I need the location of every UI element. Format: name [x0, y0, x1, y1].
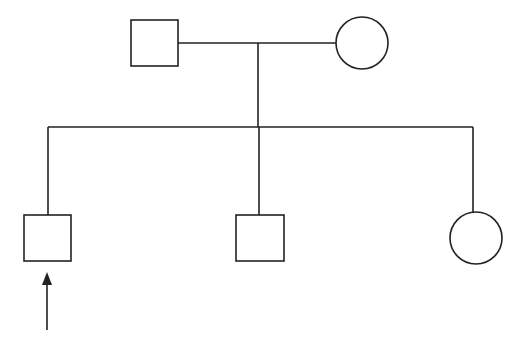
father-male-symbol — [131, 20, 178, 66]
proband-arrow-icon — [42, 272, 52, 330]
son-2-male-symbol — [236, 215, 284, 261]
mother-female-symbol — [336, 17, 388, 69]
pedigree-diagram — [0, 0, 520, 346]
son-1-proband-male-symbol — [24, 215, 71, 261]
daughter-female-symbol — [450, 212, 502, 264]
